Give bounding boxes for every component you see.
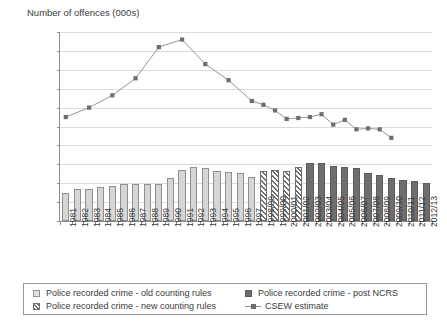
chart-title: Number of offences (000s) [27,7,139,18]
x-axis-tick-label: 2011/12 [417,197,427,227]
x-axis-tick-label: 1999/00 [278,196,288,227]
x-axis-tick-label: 2006/07 [359,196,369,227]
csew-data-point [157,45,161,49]
x-axis-tick-label: 1992 [196,208,206,227]
csew-data-point [64,115,68,119]
csew-data-point [331,123,335,127]
plot-area [59,32,432,222]
csew-data-point [110,93,114,97]
csew-data-point [296,116,300,120]
x-axis-tick-label: 2002/03 [313,196,323,227]
x-axis-tick-label: 1998/99 [266,196,276,227]
x-axis-tick-label: 1987 [138,208,148,227]
x-axis-tick-label: 1990 [173,208,183,227]
legend-item-label: CSEW estimate [265,301,329,311]
x-axis-tick-label: 2008/09 [382,196,392,227]
chart-legend: Police recorded crime - old counting rul… [23,283,427,315]
csew-data-point [87,106,91,110]
legend-swatch-icon [245,290,252,297]
x-axis-tick-label: 1981 [68,208,78,227]
legend-swatch-icon [33,290,40,297]
x-axis-tick-label: 1996 [243,208,253,227]
x-axis-tick-label: 1997 [254,208,264,227]
legend-item[interactable]: Police recorded crime - new counting rul… [33,301,216,311]
legend-item-label: Police recorded crime - new counting rul… [46,301,216,311]
legend-swatch-icon [33,303,40,310]
x-axis-tick-label: 1991 [185,208,195,227]
x-axis-tick-label: 2007/08 [371,196,381,227]
csew-data-point [273,108,277,112]
x-axis-tick-label: 2012/13 [429,196,439,227]
csew-data-point [261,103,265,107]
csew-data-point [203,62,207,66]
csew-data-point [180,37,184,41]
csew-data-point [250,99,254,103]
csew-data-point [354,127,358,131]
x-axis-tick-label: 2001/02 [301,196,311,227]
x-axis-tick-label: 1988 [150,208,160,227]
x-axis-tick-label: 2000/01 [289,196,299,227]
csew-data-point [226,78,230,82]
csew-data-point [133,76,137,80]
x-axis-tick-label: 1985 [115,208,125,227]
legend-item-label: Police recorded crime - old counting rul… [46,288,212,298]
x-axis-tick-label: 1993 [208,208,218,227]
x-axis-tick-label: 1983 [92,208,102,227]
legend-line-marker-icon [245,303,261,310]
csew-data-point [343,118,347,122]
x-axis-tick-label: 1995 [231,208,241,227]
csew-data-point [366,126,370,130]
csew-data-point [389,136,393,140]
csew-line-path [66,40,392,138]
csew-data-point [308,115,312,119]
x-axis-tick-label: 1994 [220,208,230,227]
legend-item[interactable]: Police recorded crime - old counting rul… [33,288,212,298]
x-axis-tick-label: 1989 [161,208,171,227]
csew-data-point [378,127,382,131]
csew-line-series [60,32,432,221]
chart-root: Number of offences (000s) 02,0004,0006,0… [0,0,447,323]
x-axis-tick-label: 1984 [103,208,113,227]
legend-item[interactable]: Police recorded crime - post NCRS [245,288,398,298]
legend-item[interactable]: CSEW estimate [245,301,329,311]
x-axis-tick-label: 2009/10 [394,196,404,227]
csew-data-point [319,112,323,116]
x-axis-tick-label: 1986 [127,208,137,227]
legend-item-label: Police recorded crime - post NCRS [258,288,398,298]
x-axis-tick-label: 1982 [80,208,90,227]
x-axis-tick-label: 2010/11 [406,197,416,227]
x-axis-tick-label: 2004/05 [336,196,346,227]
x-tick-mark [60,221,61,225]
x-axis-tick-label: 2003/04 [324,196,334,227]
x-axis-tick-label: 2005/06 [347,196,357,227]
csew-data-point [285,117,289,121]
